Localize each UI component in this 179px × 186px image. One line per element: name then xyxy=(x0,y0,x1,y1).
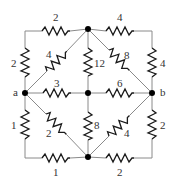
resistor-vert-upper xyxy=(84,48,92,76)
circuit-svg: 2 4 2 4 4 12 8 3 6 a b 1 2 8 4 2 1 2 xyxy=(0,0,179,186)
resistor-bottom-left xyxy=(42,154,70,162)
resistor-right-upper xyxy=(148,48,156,77)
label-right-lower: 2 xyxy=(160,119,166,131)
resistor-left-upper xyxy=(21,48,29,77)
label-node-b: b xyxy=(160,86,166,98)
label-left-lower: 1 xyxy=(11,119,17,131)
resistor-mid-left xyxy=(43,89,71,97)
resistor-vert-lower xyxy=(84,112,92,140)
label-diag-a-top: 4 xyxy=(46,48,52,60)
resistor-mid-right xyxy=(106,89,134,97)
label-right-upper: 4 xyxy=(160,57,166,69)
circuit-diagram: 2 4 2 4 4 12 8 3 6 a b 1 2 8 4 2 1 2 xyxy=(0,0,179,186)
resistor-right-lower xyxy=(148,110,156,139)
label-bottom-right: 2 xyxy=(117,166,123,178)
resistor-left-lower xyxy=(21,110,29,139)
label-vert-top-center: 12 xyxy=(94,57,105,69)
label-diag-top-b: 8 xyxy=(124,49,130,61)
label-top-left: 2 xyxy=(53,11,59,23)
node-center xyxy=(85,90,91,96)
label-horiz-center-b: 6 xyxy=(117,77,123,89)
node-bottom xyxy=(85,154,91,160)
label-diag-a-bottom: 2 xyxy=(46,127,52,139)
label-top-right: 4 xyxy=(117,11,123,23)
label-bottom-left: 1 xyxy=(53,166,59,178)
resistor-top-right xyxy=(106,27,134,35)
node-top xyxy=(85,26,91,32)
wire-left-lower xyxy=(25,93,42,158)
node-b xyxy=(149,90,155,96)
resistor-bottom-right xyxy=(106,154,134,162)
label-diag-bottom-b: 4 xyxy=(124,127,130,139)
resistor-top-left xyxy=(42,27,70,35)
label-horiz-a-center: 3 xyxy=(54,77,60,89)
label-left-upper: 2 xyxy=(11,57,17,69)
node-a xyxy=(22,90,28,96)
label-vert-center-bottom: 8 xyxy=(94,119,100,131)
label-node-a: a xyxy=(13,86,18,98)
